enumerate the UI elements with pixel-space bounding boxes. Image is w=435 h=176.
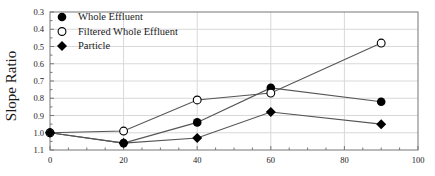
y-tick-label: 0.8 (33, 93, 44, 103)
x-axis-tick-labels: 020406080100 (48, 155, 425, 165)
y-axis-tick-labels: 0.30.40.50.60.70.80.91.01.1 (33, 7, 44, 155)
data-point (377, 39, 385, 47)
legend-marker-filled-circle (58, 13, 67, 22)
data-point (267, 89, 275, 97)
y-tick-label: 0.6 (33, 59, 44, 69)
x-tick-label: 0 (48, 155, 52, 165)
legend-label: Particle (78, 40, 110, 51)
data-point (193, 96, 201, 104)
data-point (120, 127, 128, 135)
legend-marker-open-circle (58, 28, 66, 36)
y-tick-label: 1.1 (33, 145, 44, 155)
x-tick-label: 40 (193, 155, 202, 165)
x-tick-label: 20 (119, 155, 128, 165)
data-point (377, 97, 386, 106)
legend-label: Whole Effluent (78, 11, 143, 22)
x-tick-label: 60 (267, 155, 276, 165)
y-tick-label: 0.5 (33, 42, 44, 52)
y-axis-title: Slope Ratio (3, 51, 19, 121)
y-tick-label: 1.0 (33, 128, 44, 138)
slope-ratio-line-chart: 0.30.40.50.60.70.80.91.01.1 020406080100… (0, 0, 435, 176)
y-tick-label: 0.4 (33, 24, 44, 34)
data-point (193, 118, 202, 127)
chart-figure: 0.30.40.50.60.70.80.91.01.1 020406080100… (0, 0, 435, 176)
y-tick-label: 0.7 (33, 76, 44, 86)
y-tick-label: 0.9 (33, 111, 44, 121)
legend-label: Filtered Whole Effluent (78, 26, 178, 37)
y-tick-label: 0.3 (33, 7, 44, 17)
x-tick-label: 100 (412, 155, 425, 165)
x-tick-label: 80 (340, 155, 349, 165)
